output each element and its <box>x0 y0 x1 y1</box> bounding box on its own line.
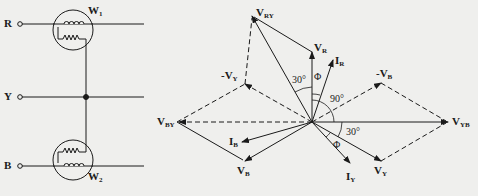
label-v-b: VB <box>237 165 250 178</box>
label-v-y: VY <box>374 165 387 178</box>
terminal-label-r: R <box>4 18 12 29</box>
angle-30-bottom: 30° <box>346 127 360 137</box>
terminal-y <box>18 95 23 100</box>
label-neg-v-b: -VB <box>376 68 392 81</box>
label-neg-v-y: -VY <box>221 70 238 83</box>
label-v-yb: VYB <box>452 116 470 129</box>
terminal-label-y: Y <box>4 91 12 102</box>
wattmeter-label-w2: W2 <box>88 171 103 184</box>
label-v-r: VR <box>314 42 327 55</box>
phasor-diagram <box>177 16 448 163</box>
wattmeter-label-w1: W1 <box>88 5 103 18</box>
label-v-by: VBY <box>157 116 175 129</box>
angle-phi-bottom: Φ <box>333 140 340 150</box>
terminal-label-b: B <box>4 160 11 171</box>
angle-phi-top: Φ <box>314 72 321 82</box>
label-i-y: IY <box>346 171 355 184</box>
wattmeter-w2 <box>53 140 93 180</box>
label-v-ry: VRY <box>256 7 274 20</box>
terminal-r <box>18 22 23 27</box>
angle-90: 90° <box>330 94 344 104</box>
label-i-r: IR <box>335 55 344 68</box>
junction-node <box>84 95 89 100</box>
angle-30-top: 30° <box>292 75 306 85</box>
circuit-schematic <box>18 10 144 180</box>
wattmeter-w1 <box>53 10 93 50</box>
terminal-b <box>18 164 23 169</box>
label-i-b: IB <box>229 136 238 149</box>
